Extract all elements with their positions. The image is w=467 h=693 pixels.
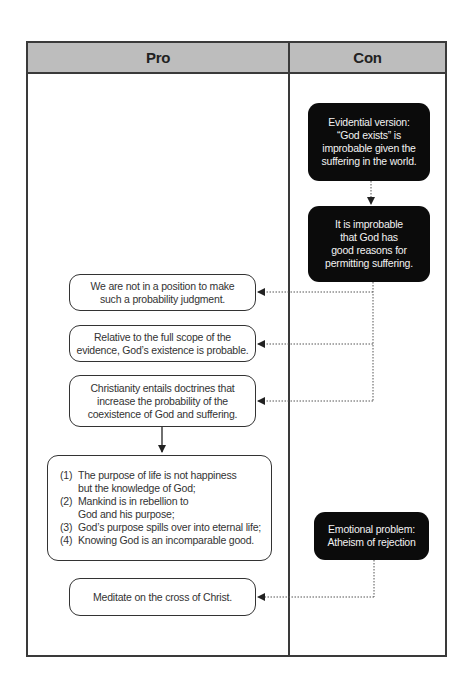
doctrine-number: (1) (60, 469, 78, 495)
doctrine-text: The purpose of life is not happiness but… (78, 469, 237, 495)
con-evidential-version-box: Evidential version: “God exists” is impr… (308, 103, 430, 181)
doctrine-text: God’s purpose spills over into eternal l… (78, 521, 261, 534)
con-emotional-problem-text: Emotional problem: Atheism of rejection (327, 523, 415, 549)
con-improbable-reasons-text: It is improbable that God has good reaso… (325, 218, 413, 270)
doctrines-list: (1) The purpose of life is not happiness… (60, 469, 261, 547)
doctrine-number: (4) (60, 534, 78, 547)
doctrine-text: Knowing God is an incomparable good. (78, 534, 254, 547)
doctrine-item: (3) God’s purpose spills over into etern… (60, 521, 261, 534)
pro-doctrines-list-box: (1) The purpose of life is not happiness… (47, 455, 272, 561)
doctrine-text: Mankind is in rebellion to God and his p… (78, 495, 188, 521)
pro-meditate-text: Meditate on the cross of Christ. (93, 591, 232, 604)
table-header: Pro Con (28, 43, 445, 74)
pro-column-header: Pro (28, 43, 288, 72)
con-column-header: Con (290, 43, 445, 72)
pro-meditate-box: Meditate on the cross of Christ. (69, 578, 256, 616)
doctrine-item: (4) Knowing God is an incomparable good. (60, 534, 261, 547)
pro-christianity-doctrines-box: Christianity entails doctrines that incr… (69, 375, 256, 427)
column-divider (288, 43, 290, 655)
doctrine-item: (1) The purpose of life is not happiness… (60, 469, 261, 495)
con-emotional-problem-box: Emotional problem: Atheism of rejection (314, 512, 429, 560)
con-improbable-reasons-box: It is improbable that God has good reaso… (308, 206, 430, 282)
doctrine-item: (2) Mankind is in rebellion to God and h… (60, 495, 261, 521)
pro-not-in-position-box: We are not in a position to make such a … (69, 274, 256, 311)
doctrine-number: (3) (60, 521, 78, 534)
pro-christianity-doctrines-text: Christianity entails doctrines that incr… (88, 382, 238, 421)
pro-not-in-position-text: We are not in a position to make such a … (91, 280, 235, 306)
doctrine-number: (2) (60, 495, 78, 521)
con-evidential-version-text: Evidential version: “God exists” is impr… (321, 116, 416, 168)
pro-full-scope-text: Relative to the full scope of the eviden… (77, 331, 249, 357)
pro-full-scope-box: Relative to the full scope of the eviden… (69, 325, 256, 362)
